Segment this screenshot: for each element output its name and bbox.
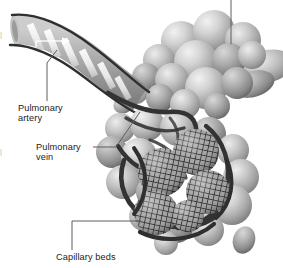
capillary-sphere [134, 191, 178, 235]
label-pulmonary-artery: Pulmonary artery [18, 103, 63, 124]
pulmonary-alveoli-illustration [0, 0, 283, 268]
cropped-text-fragment-mid: | [0, 147, 4, 156]
cropped-text-fragment-top: | [0, 30, 4, 39]
label-capillary-beds: Capillary beds [56, 252, 116, 262]
label-pulmonary-vein: Pulmonary vein [36, 142, 81, 163]
capillary-sphere [172, 200, 204, 232]
